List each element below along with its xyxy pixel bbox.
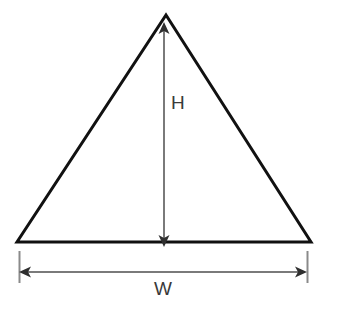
height-label: H — [171, 93, 185, 112]
height-dimension-arrow — [159, 22, 170, 247]
width-label: W — [154, 279, 172, 298]
width-dimension-arrow — [19, 267, 307, 278]
triangle-diagram-svg — [0, 0, 339, 310]
diagram-canvas: H W — [0, 0, 339, 310]
